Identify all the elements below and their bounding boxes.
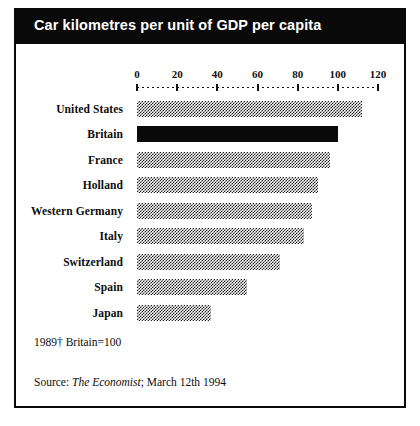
x-axis-tick-label: 20 bbox=[172, 68, 183, 80]
x-axis-tick-label: 40 bbox=[212, 68, 223, 80]
bar-row: Holland bbox=[16, 173, 404, 199]
bar-row: France bbox=[16, 147, 404, 173]
bar bbox=[137, 254, 280, 270]
bar bbox=[137, 305, 211, 321]
x-axis-tick bbox=[377, 84, 379, 91]
chart-title-bar: Car kilometres per unit of GDP per capit… bbox=[16, 10, 404, 44]
x-axis-tick bbox=[216, 84, 218, 91]
bar-row: Spain bbox=[16, 275, 404, 301]
bar-rows: United StatesBritainFranceHollandWestern… bbox=[16, 96, 404, 326]
bar-category-label: France bbox=[19, 154, 123, 166]
chart-figure: Car kilometres per unit of GDP per capit… bbox=[14, 8, 406, 408]
x-axis-tick-label: 0 bbox=[134, 68, 140, 80]
source-publication: The Economist bbox=[72, 376, 141, 388]
bar bbox=[137, 101, 362, 117]
x-axis-tick-label: 100 bbox=[330, 68, 347, 80]
bar bbox=[137, 126, 338, 142]
bar bbox=[137, 152, 330, 168]
source-suffix: ; March 12th 1994 bbox=[141, 376, 226, 388]
bar-row: Switzerland bbox=[16, 249, 404, 275]
x-axis-tick bbox=[337, 84, 339, 91]
bar-row: Italy bbox=[16, 224, 404, 250]
footnote-source: Source: The Economist; March 12th 1994 bbox=[34, 376, 226, 388]
bar-category-label: Japan bbox=[19, 307, 123, 319]
chart-plot-area: 020406080100120 United StatesBritainFran… bbox=[16, 44, 404, 408]
footnote-basis: 1989† Britain=100 bbox=[34, 336, 121, 348]
bar bbox=[137, 228, 304, 244]
page-title: Car kilometres per unit of GDP per capit… bbox=[34, 17, 321, 33]
x-axis-tick bbox=[297, 84, 299, 91]
x-axis-tick bbox=[176, 84, 178, 91]
x-axis-tick bbox=[136, 84, 138, 91]
bar-category-label: Spain bbox=[19, 281, 123, 293]
x-axis-tick-label: 60 bbox=[252, 68, 263, 80]
bar-row: Britain bbox=[16, 122, 404, 148]
bar-row: Japan bbox=[16, 300, 404, 326]
x-axis-tick-label: 80 bbox=[292, 68, 303, 80]
bar-category-label: Britain bbox=[19, 128, 123, 140]
bar-category-label: Western Germany bbox=[19, 205, 123, 217]
bar-row: United States bbox=[16, 96, 404, 122]
x-axis-tick bbox=[257, 84, 259, 91]
x-axis-tick-labels: 020406080100120 bbox=[16, 68, 404, 82]
bar-category-label: United States bbox=[19, 103, 123, 115]
x-axis-line bbox=[137, 86, 378, 89]
bar-category-label: Holland bbox=[19, 179, 123, 191]
bar-category-label: Italy bbox=[19, 230, 123, 242]
x-axis-tick-label: 120 bbox=[370, 68, 387, 80]
bar bbox=[137, 279, 247, 295]
bar-row: Western Germany bbox=[16, 198, 404, 224]
source-prefix: Source: bbox=[34, 376, 72, 388]
bar-category-label: Switzerland bbox=[19, 256, 123, 268]
bar bbox=[137, 203, 312, 219]
bar bbox=[137, 177, 318, 193]
